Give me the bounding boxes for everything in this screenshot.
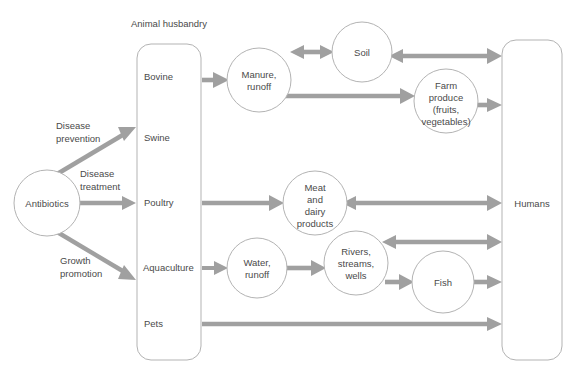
growth-promotion-line1: Growth bbox=[60, 255, 91, 266]
water-runoff-label-line2: runoff bbox=[245, 269, 269, 280]
arrow-fish-to-humans bbox=[474, 275, 502, 289]
arrow-poultry-to-meat-dairy bbox=[202, 195, 284, 211]
soil-label: Soil bbox=[354, 47, 370, 58]
diagram-canvas: Animal husbandry Bovine Swine Poultry Aq… bbox=[0, 0, 577, 376]
edge-label-growth-promotion: Growth promotion bbox=[60, 255, 102, 279]
manure-runoff-circle[interactable] bbox=[227, 48, 291, 112]
disease-treatment-line1: Disease bbox=[80, 168, 114, 179]
animal-husbandry-group[interactable]: Animal husbandry Bovine Swine Poultry Aq… bbox=[131, 18, 207, 360]
disease-treatment-line2: treatment bbox=[80, 181, 120, 192]
node-fish[interactable]: Fish bbox=[412, 251, 474, 313]
node-soil[interactable]: Soil bbox=[332, 22, 392, 82]
farm-produce-label-line1: Farm bbox=[435, 80, 457, 91]
arrow-rivers-to-fish bbox=[385, 274, 414, 290]
husbandry-item-poultry[interactable]: Poultry bbox=[144, 197, 174, 208]
arrow-meat-dairy-humans-bidirectional bbox=[342, 195, 502, 211]
disease-prevention-line2: prevention bbox=[56, 133, 100, 144]
rivers-label-line2: streams, bbox=[338, 258, 374, 269]
rivers-label-line3: wells bbox=[344, 270, 366, 281]
disease-prevention-line1: Disease bbox=[56, 120, 90, 131]
humans-label: Humans bbox=[514, 198, 550, 209]
node-meat-dairy-products[interactable]: Meat and dairy products bbox=[283, 171, 347, 235]
meat-dairy-label-line3: dairy bbox=[305, 206, 326, 217]
farm-produce-label-line3: (fruits, bbox=[433, 104, 459, 115]
farm-produce-label-line4: vegetables) bbox=[421, 116, 470, 127]
node-manure-runoff[interactable]: Manure, runoff bbox=[227, 48, 291, 112]
edge-label-disease-treatment: Disease treatment bbox=[80, 168, 120, 192]
farm-produce-label-line2: produce bbox=[429, 92, 463, 103]
husbandry-item-swine[interactable]: Swine bbox=[144, 132, 170, 143]
manure-runoff-label-line1: Manure, bbox=[242, 69, 277, 80]
animal-husbandry-title: Animal husbandry bbox=[131, 18, 207, 29]
arrow-soil-humans-bidirectional bbox=[389, 48, 502, 64]
arrow-aquaculture-to-water bbox=[202, 261, 228, 275]
node-water-runoff[interactable]: Water, runoff bbox=[227, 238, 287, 298]
meat-dairy-label-line1: Meat bbox=[304, 182, 325, 193]
husbandry-item-aquaculture[interactable]: Aquaculture bbox=[143, 262, 194, 273]
edge-label-disease-prevention: Disease prevention bbox=[56, 120, 100, 144]
water-runoff-circle[interactable] bbox=[227, 238, 287, 298]
antibiotics-label: Antibiotics bbox=[25, 198, 69, 209]
arrow-manure-soil-bidirectional bbox=[290, 45, 334, 59]
growth-promotion-line2: promotion bbox=[60, 268, 102, 279]
node-antibiotics[interactable]: Antibiotics bbox=[14, 170, 80, 236]
node-humans[interactable]: Humans bbox=[502, 40, 562, 360]
husbandry-item-pets[interactable]: Pets bbox=[144, 318, 163, 329]
fish-label: Fish bbox=[434, 277, 452, 288]
arrow-water-to-rivers bbox=[286, 260, 326, 276]
node-farm-produce[interactable]: Farm produce (fruits, vegetables) bbox=[414, 69, 478, 133]
husbandry-item-bovine[interactable]: Bovine bbox=[144, 71, 173, 82]
arrow-bovine-to-manure bbox=[202, 72, 229, 88]
arrow-pets-to-humans bbox=[202, 317, 502, 331]
arrow-rivers-humans-bidirectional bbox=[382, 234, 502, 250]
manure-runoff-label-line2: runoff bbox=[247, 81, 271, 92]
antibiotic-resistance-flow-diagram: Animal husbandry Bovine Swine Poultry Aq… bbox=[0, 0, 577, 376]
rivers-label-line1: Rivers, bbox=[341, 246, 371, 257]
arrow-farm-produce-to-humans bbox=[476, 98, 502, 112]
meat-dairy-label-line4: products bbox=[297, 218, 334, 229]
water-runoff-label-line1: Water, bbox=[243, 257, 270, 268]
meat-dairy-label-line2: and bbox=[307, 194, 323, 205]
node-rivers-streams-wells[interactable]: Rivers, streams, wells bbox=[324, 231, 388, 295]
